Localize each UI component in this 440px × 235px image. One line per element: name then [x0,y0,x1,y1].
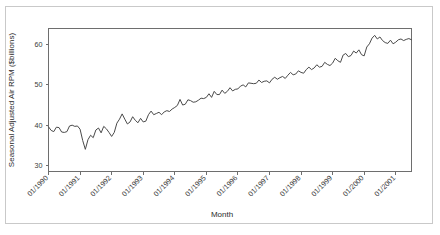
x-tick-label: 01/1995 [183,174,208,199]
plot-frame [49,29,412,172]
y-tick-label: 30 [35,161,43,170]
y-axis-title: Seasonal Adjusted Air RPM ($billions) [7,33,16,168]
x-tick-label: 01/1994 [151,174,176,199]
y-axis-tick-labels: 30405060 [35,40,43,170]
data-series-line [49,35,412,149]
x-tick-label: 01/1998 [278,174,303,199]
x-tick-label: 01/1997 [246,174,271,199]
x-tick-label: 01/1992 [88,174,113,199]
x-tick-label: 01/1999 [309,174,334,199]
x-tick-label: 01/2001 [372,174,397,199]
y-tick-label: 60 [35,40,43,49]
x-tick-label: 01/1991 [57,174,82,199]
y-tick-label: 50 [35,80,43,89]
line-chart: 30405060 01/199001/199101/199201/199301/… [0,0,440,235]
chart-figure: 30405060 01/199001/199101/199201/199301/… [0,0,440,235]
x-tick-label: 01/1996 [215,174,240,199]
x-axis-tick-labels: 01/199001/199101/199201/199301/199401/19… [25,174,397,199]
x-tick-label: 01/2000 [341,174,366,199]
x-tick-label: 01/1990 [25,174,50,199]
x-axis-title: Month [211,210,233,219]
x-tick-label: 01/1993 [120,174,145,199]
y-tick-label: 40 [35,121,43,130]
